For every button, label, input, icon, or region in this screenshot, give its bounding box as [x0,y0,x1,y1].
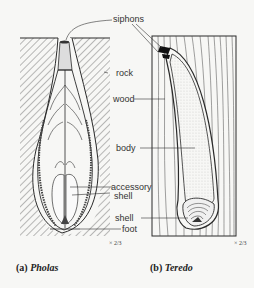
label-accessory-shell: shell [114,192,133,201]
caption-teredo: (b) Teredo [150,262,193,273]
caption-pholas: (a) Pholas [16,262,59,273]
label-shell: shell [115,214,134,223]
scale-teredo: × 2/3 [234,240,247,246]
teredo-figure [152,36,236,236]
label-foot: foot [122,225,137,234]
label-body: body [116,144,136,153]
caption-name-pholas: Pholas [30,262,58,273]
label-wood: wood [113,95,135,104]
pholas-figure [20,38,110,236]
caption-name-teredo: Teredo [165,262,193,273]
label-rock: rock [116,69,133,78]
label-siphons: siphons [113,15,144,24]
scale-pholas: × 2/3 [109,240,122,246]
caption-prefix-a: (a) [16,262,28,273]
caption-prefix-b: (b) [150,262,162,273]
